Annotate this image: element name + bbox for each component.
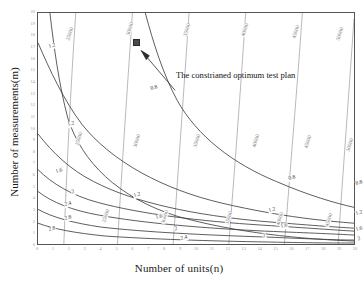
optimum-annotation-label: The constrianed optimum test plan [176, 70, 295, 80]
cost-contour-45000 [284, 13, 302, 244]
x-axis-tick-label: 11 [210, 247, 214, 251]
x-axis-tick-label: 20 [353, 247, 357, 251]
x-axis-tick-label: 9 [179, 247, 181, 251]
x-axis-tick-label: 4 [99, 247, 101, 251]
y-axis-tick-label: 20 [24, 10, 35, 14]
x-axis-tick-label: 2 [68, 247, 70, 251]
y-axis-tick-label: 14 [24, 80, 35, 84]
criterion-contour-2.4 [38, 191, 354, 235]
x-axis-tick-label: 6 [131, 247, 133, 251]
x-axis-tick-label: 12 [226, 247, 230, 251]
x-axis-tick-label: 19 [337, 247, 341, 251]
y-axis-tick-label: 8 [24, 150, 35, 154]
criterion-contour-0.8-upper [50, 13, 354, 241]
criterion-contour-2 [38, 170, 354, 231]
contour-curves [38, 13, 354, 244]
x-axis-tick-label: 15 [273, 247, 277, 251]
y-axis-tick-label: 4 [24, 196, 35, 200]
x-axis-tick-label: 0 [36, 247, 38, 251]
y-axis-tick-label: 16 [24, 56, 35, 60]
criterion-contour-label: 1.2 [355, 210, 364, 218]
x-axis-tick-label: 10 [194, 247, 198, 251]
criterion-contour-label: 1.6 [355, 225, 364, 233]
x-axis-tick-label: 13 [241, 247, 245, 251]
x-axis-tick-label: 18 [321, 247, 325, 251]
x-axis-tick-label: 5 [115, 247, 117, 251]
y-axis-tick-label: 1 [24, 231, 35, 235]
y-axis-tick-label: 15 [24, 68, 35, 72]
cost-contour-30000 [117, 13, 132, 244]
y-axis-tick-label: 7 [24, 161, 35, 165]
y-axis-tick-label: 13 [24, 91, 35, 95]
y-axis-tick-label: 18 [24, 33, 35, 37]
y-axis-tick-label: 19 [24, 21, 35, 25]
y-axis-tick-label: 2 [24, 219, 35, 223]
x-axis-title: Number of units(n) [0, 262, 358, 274]
criterion-contour-0.8 [145, 13, 354, 207]
y-axis-tick-label: 11 [24, 115, 35, 119]
criterion-contour-group [38, 13, 354, 243]
y-axis-tick-label: 6 [24, 173, 35, 177]
x-axis-tick-label: 3 [84, 247, 86, 251]
y-axis-tick-label: 17 [24, 45, 35, 49]
x-axis-tick-label: 1 [52, 247, 54, 251]
cost-contour-35000 [173, 13, 189, 244]
y-axis-tick-label: 9 [24, 138, 35, 142]
x-axis-tick-label: 16 [289, 247, 293, 251]
y-axis-tick-label: 5 [24, 185, 35, 189]
x-axis-tick-label: 8 [163, 247, 165, 251]
y-axis-tick-label: 10 [24, 126, 35, 130]
x-axis-tick-label: 14 [257, 247, 261, 251]
y-axis-title: Number of measurements(m) [8, 32, 20, 232]
plot-area: 2500030000350004000045000500002500030000… [37, 12, 355, 245]
y-axis-tick-label: 3 [24, 208, 35, 212]
y-axis-tick-label: 0 [24, 243, 35, 247]
y-axis-tick-label: 12 [24, 103, 35, 107]
criterion-contour-label: 2 [357, 236, 362, 242]
cost-contour-50000 [338, 19, 354, 244]
optimum-point-marker [133, 39, 140, 46]
x-axis-tick-label: 17 [305, 247, 309, 251]
criterion-contour-label: 0.8 [355, 179, 364, 187]
x-axis-tick-label: 7 [147, 247, 149, 251]
cost-contour-40000 [229, 13, 246, 244]
